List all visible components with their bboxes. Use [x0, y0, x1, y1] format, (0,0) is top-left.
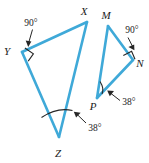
leader-line-angle-p	[111, 94, 120, 101]
triangle-xyz	[22, 22, 87, 137]
angle-label-p: 38°	[122, 97, 136, 107]
angle-label-y: 90°	[24, 18, 38, 28]
vertex-label-n: N	[135, 57, 144, 69]
leader-angle-n	[128, 38, 134, 51]
geometry-figure: X Y Z M N P 90° 38° 90° 38°	[0, 0, 149, 163]
leader-line-angle-z	[78, 115, 87, 123]
leader-arrowhead-angle-n	[128, 45, 134, 51]
segment-zy	[22, 52, 59, 137]
vertex-label-m: M	[100, 9, 111, 21]
leader-arrowhead-angle-y	[26, 41, 32, 47]
leader-line-angle-y	[29, 30, 33, 44]
leader-angle-y	[26, 30, 33, 48]
vertex-label-z: Z	[55, 147, 62, 159]
vertex-label-x: X	[80, 5, 89, 17]
vertex-label-y: Y	[4, 45, 12, 57]
leader-line-angle-n	[128, 38, 133, 47]
angle-label-z: 38°	[88, 123, 102, 133]
figure-canvas: X Y Z M N P 90° 38° 90° 38°	[0, 0, 149, 163]
vertex-label-p: P	[89, 100, 97, 112]
angle-label-n: 90°	[125, 25, 139, 35]
leader-angle-z	[74, 112, 86, 123]
angle-arc-z	[42, 110, 73, 118]
leader-angle-p	[107, 91, 120, 101]
